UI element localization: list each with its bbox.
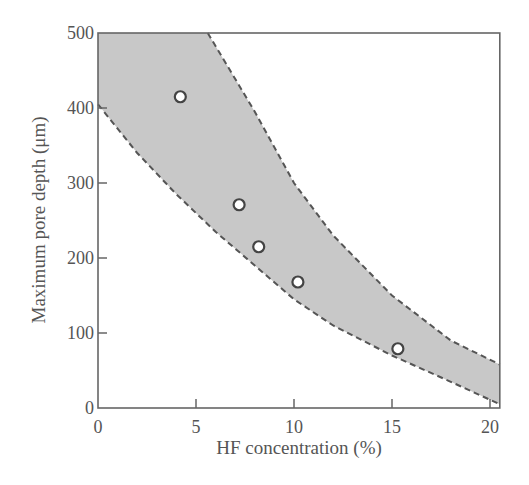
x-tick-label: 20 xyxy=(481,417,499,437)
y-tick-label: 500 xyxy=(67,23,94,43)
x-axis-label: HF concentration (%) xyxy=(216,437,382,459)
x-tick-label: 5 xyxy=(192,417,201,437)
y-tick-label: 200 xyxy=(67,248,94,268)
y-tick-label: 100 xyxy=(67,323,94,343)
y-tick-label: 400 xyxy=(67,98,94,118)
x-tick-label: 0 xyxy=(94,417,103,437)
x-tick-label: 10 xyxy=(285,417,303,437)
y-tick-label: 300 xyxy=(67,173,94,193)
chart: 051015200100200300400500 HF concentratio… xyxy=(0,0,529,485)
data-point xyxy=(392,343,403,354)
y-tick-label: 0 xyxy=(85,398,94,418)
data-point xyxy=(234,199,245,210)
data-point xyxy=(175,91,186,102)
data-point xyxy=(253,241,264,252)
y-axis-label: Maximum pore depth (μm) xyxy=(28,116,50,323)
x-tick-label: 15 xyxy=(383,417,401,437)
band-fill xyxy=(98,33,500,404)
data-point xyxy=(292,277,303,288)
shaded-band xyxy=(98,33,500,404)
